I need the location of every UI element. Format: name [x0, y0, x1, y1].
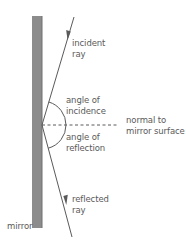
incident-ray-arrow-icon	[66, 30, 71, 40]
reflected-ray-label-line2: ray	[72, 205, 109, 216]
angle-of-reflection-arc	[48, 125, 66, 148]
normal-label-line2: mirror surface	[126, 126, 185, 137]
incident-ray-label-line2: ray	[72, 49, 105, 60]
normal-label: normal to mirror surface	[126, 115, 185, 137]
angle-of-reflection-label-line1: angle of	[66, 132, 105, 143]
angle-of-reflection-label: angle of reflection	[66, 132, 105, 154]
reflected-ray-label: reflected ray	[72, 194, 109, 216]
angle-of-incidence-arc	[49, 102, 66, 125]
angle-of-incidence-label-line1: angle of	[66, 95, 106, 106]
angle-of-incidence-label: angle of incidence	[66, 95, 106, 117]
reflected-ray-arrow-icon	[63, 195, 68, 205]
mirror-bar	[32, 16, 42, 228]
reflection-diagram: incident ray angle of incidence normal t…	[0, 0, 186, 240]
angle-of-reflection-label-line2: reflection	[66, 143, 105, 154]
incident-ray-label: incident ray	[72, 38, 105, 60]
reflected-ray-label-line1: reflected	[72, 194, 109, 205]
incident-ray-label-line1: incident	[72, 38, 105, 49]
mirror-label: mirror	[7, 221, 32, 232]
normal-label-line1: normal to	[126, 115, 185, 126]
angle-of-incidence-label-line2: incidence	[66, 106, 106, 117]
